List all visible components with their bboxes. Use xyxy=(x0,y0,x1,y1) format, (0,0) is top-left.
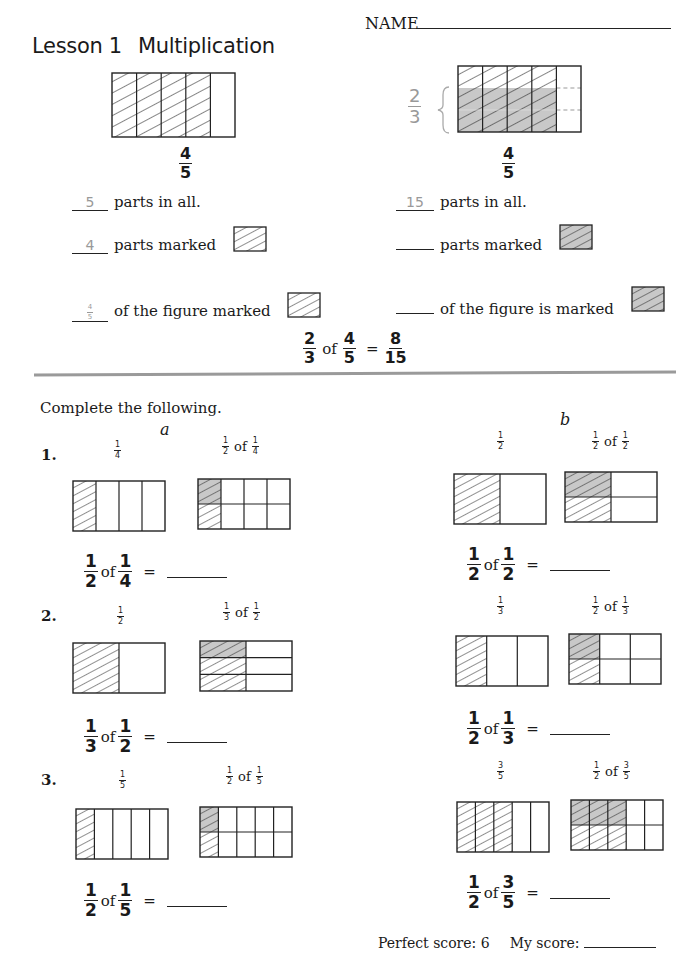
example-equation: 23 of 45 = 815 xyxy=(303,331,407,366)
item-1b-answer[interactable] xyxy=(550,558,610,571)
item-3a-figure-first xyxy=(75,808,171,860)
item-1b-first-caption: 12 xyxy=(497,432,504,451)
hatched-swatch-icon xyxy=(287,292,321,318)
score-footer: Perfect score: 6My score: xyxy=(378,935,656,951)
left-parts-marked: 4parts marked xyxy=(72,236,267,254)
brace-icon xyxy=(436,85,452,135)
item-3a-first-caption: 15 xyxy=(119,771,126,790)
example-right-side-fraction: 23 xyxy=(408,87,421,126)
item-1b-figure-second xyxy=(564,471,660,523)
item-2b-figure-second xyxy=(568,633,664,685)
item-1a-figure-second xyxy=(197,478,293,530)
item-1a-answer[interactable] xyxy=(167,565,227,578)
left-parts-marked-answer[interactable]: 4 xyxy=(72,238,108,254)
lesson-topic: Multiplication xyxy=(138,34,275,58)
left-figure-marked: 45of the figure marked xyxy=(72,302,321,322)
item-3b-figure-first xyxy=(456,801,552,853)
right-parts-marked-answer[interactable] xyxy=(396,249,434,250)
column-b-label: b xyxy=(560,410,570,429)
lesson-label: Lesson 1 xyxy=(32,34,122,58)
hatched-swatch-icon xyxy=(233,226,267,252)
right-figure-marked-answer[interactable] xyxy=(396,313,434,314)
left-parts-in-all: 5parts in all. xyxy=(72,193,201,211)
my-score-field[interactable] xyxy=(584,947,656,948)
item-2b-second-caption: 12 of 13 xyxy=(592,597,629,616)
right-parts-marked: parts marked xyxy=(396,236,593,254)
item-1a-second-caption: 12 of 14 xyxy=(222,437,259,456)
item-3-number: 3. xyxy=(41,771,57,789)
lesson-title: Lesson 1Multiplication xyxy=(32,34,275,58)
my-score-label: My score: xyxy=(510,935,580,951)
example-left-fraction: 45 xyxy=(179,146,192,181)
left-figure-marked-answer[interactable]: 45 xyxy=(72,304,108,322)
item-3a-second-caption: 12 of 15 xyxy=(226,767,263,786)
right-figure-marked: of the figure is marked xyxy=(396,300,665,318)
item-3a-figure-second xyxy=(199,806,295,858)
item-1b-second-caption: 12 of 12 xyxy=(592,432,629,451)
item-1-number: 1. xyxy=(41,446,57,464)
item-3b-answer[interactable] xyxy=(550,886,610,899)
item-3b-equation: 12 of 35 = xyxy=(467,874,610,911)
name-label: NAME xyxy=(365,14,419,33)
item-2a-equation: 13 of 12 = xyxy=(84,718,227,755)
perfect-score: Perfect score: 6 xyxy=(378,935,490,951)
right-parts-in-all-answer[interactable]: 15 xyxy=(396,195,434,211)
item-2b-first-caption: 13 xyxy=(497,597,504,616)
item-2b-figure-first xyxy=(455,635,551,687)
item-1a-first-caption: 14 xyxy=(114,441,121,460)
item-3b-figure-second xyxy=(570,799,666,851)
item-3b-first-caption: 35 xyxy=(497,762,504,781)
item-3a-answer[interactable] xyxy=(167,894,227,907)
item-1a-equation: 12 of 14 = xyxy=(84,553,227,590)
item-2a-figure-first xyxy=(72,642,168,694)
item-1b-equation: 12 of 12 = xyxy=(467,546,610,583)
instructions: Complete the following. xyxy=(40,399,222,417)
example-left-figure xyxy=(110,71,238,139)
item-1b-figure-first xyxy=(453,473,549,525)
left-parts-in-all-answer[interactable]: 5 xyxy=(72,195,108,211)
item-3b-second-caption: 12 of 35 xyxy=(593,762,630,781)
item-2a-figure-second xyxy=(199,640,295,692)
column-a-label: a xyxy=(160,420,170,439)
item-2a-answer[interactable] xyxy=(167,730,227,743)
shaded-hatched-swatch-icon xyxy=(631,286,665,312)
name-field[interactable] xyxy=(416,28,671,29)
section-divider xyxy=(34,371,676,377)
item-2a-first-caption: 12 xyxy=(117,607,124,626)
right-parts-in-all: 15parts in all. xyxy=(396,193,527,211)
shaded-hatched-swatch-icon xyxy=(559,224,593,250)
item-3a-equation: 12 of 15 = xyxy=(84,882,227,919)
item-1a-figure-first xyxy=(72,480,168,532)
item-2-number: 2. xyxy=(41,607,57,625)
item-2b-equation: 12 of 13 = xyxy=(467,710,610,747)
example-right-fraction: 45 xyxy=(502,146,515,181)
item-2b-answer[interactable] xyxy=(550,722,610,735)
example-right-figure xyxy=(456,64,584,134)
item-2a-second-caption: 13 of 12 xyxy=(223,603,260,622)
